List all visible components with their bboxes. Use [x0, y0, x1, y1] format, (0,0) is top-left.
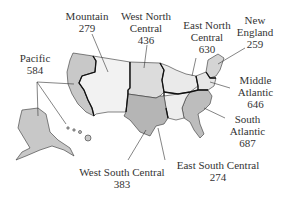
label-text: West South Central	[72, 166, 172, 178]
label-text: South	[220, 113, 275, 125]
label-value: 259	[230, 38, 280, 50]
label-ma: Middle Atlantic 646	[228, 74, 283, 110]
region-wsc	[124, 94, 168, 136]
label-text: Atlantic	[228, 86, 283, 98]
label-value: 687	[220, 137, 275, 149]
region-hawaii	[67, 127, 91, 141]
label-pacific: Pacific 584	[10, 52, 60, 76]
label-text: East South Central	[168, 159, 268, 171]
label-text: Middle	[228, 74, 283, 86]
label-esc: East South Central 274	[168, 159, 268, 183]
label-value: 274	[168, 171, 268, 183]
region-enc	[160, 63, 198, 94]
region-wnc	[128, 62, 164, 98]
label-value: 383	[72, 178, 172, 190]
label-value: 646	[228, 98, 283, 110]
label-wsc: West South Central 383	[72, 166, 172, 190]
label-text: England	[230, 26, 280, 38]
label-text: Pacific	[10, 52, 60, 64]
label-ne: New England 259	[230, 14, 280, 50]
label-value: 584	[10, 64, 60, 76]
region-ne	[206, 54, 224, 78]
label-text: New	[230, 14, 280, 26]
region-alaska	[16, 108, 74, 160]
label-text: Atlantic	[220, 125, 275, 137]
label-sa: South Atlantic 687	[220, 113, 275, 149]
